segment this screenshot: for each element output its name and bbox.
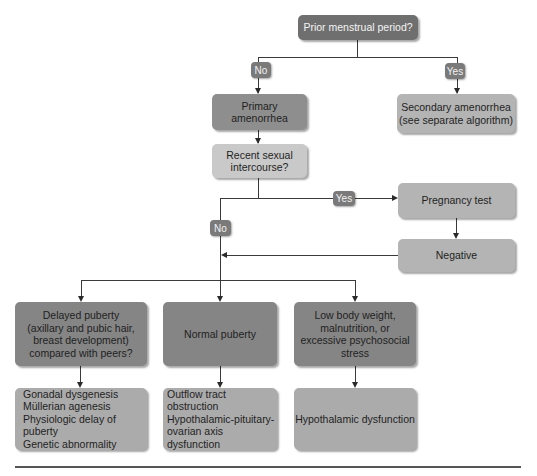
node-label: Delayed puberty (axillary and pubic hair… xyxy=(27,309,134,359)
node-outcome-normal: Outflow tract obstruction Hypothalamic-p… xyxy=(163,388,277,450)
node-label: Low body weight, malnutrition, or excess… xyxy=(300,309,409,359)
connector-root-down xyxy=(357,40,358,57)
pill-text: Yes xyxy=(336,193,352,204)
node-label: Normal puberty xyxy=(184,328,256,341)
node-normal-puberty: Normal puberty xyxy=(163,302,277,366)
connector-root-split xyxy=(258,57,458,58)
node-label: Gonadal dysgenesis Müllerian agenesis Ph… xyxy=(23,388,147,451)
node-label: Hypothalamic dysfunction xyxy=(295,413,415,426)
node-delayed-puberty: Delayed puberty (axillary and pubic hair… xyxy=(15,302,147,366)
pill-text: No xyxy=(214,223,227,234)
branch-label-intercourse-yes: Yes xyxy=(333,191,355,206)
node-prior-menstrual-period: Prior menstrual period? xyxy=(298,15,418,40)
branch-label-no: No xyxy=(251,62,271,78)
connector-to-lowweight xyxy=(355,280,356,297)
node-label: Outflow tract obstruction Hypothalamic-p… xyxy=(167,388,277,451)
node-label: Secondary amenorrhea (see separate algor… xyxy=(399,101,513,126)
node-pregnancy-test: Pregnancy test xyxy=(398,183,515,218)
pill-text: No xyxy=(255,65,268,76)
node-primary-amenorrhea: Primary amenorrhea xyxy=(212,94,307,130)
node-recent-sexual-intercourse: Recent sexual intercourse? xyxy=(212,144,307,178)
arrow-negative-to-trunk xyxy=(221,252,227,258)
connector-lowweight-to-outcome xyxy=(355,366,356,383)
node-label: Pregnancy test xyxy=(421,194,491,207)
node-label: Negative xyxy=(436,249,477,262)
node-low-body-weight: Low body weight, malnutrition, or excess… xyxy=(294,302,416,366)
node-label: Prior menstrual period? xyxy=(303,21,412,34)
connector-intercourse-split xyxy=(220,198,392,199)
node-negative: Negative xyxy=(398,239,515,272)
branch-label-yes: Yes xyxy=(445,63,465,79)
node-label: Primary amenorrhea xyxy=(231,100,288,125)
connector-to-delayed xyxy=(81,280,82,297)
branch-label-intercourse-no: No xyxy=(210,220,231,236)
node-outcome-delayed: Gonadal dysgenesis Müllerian agenesis Ph… xyxy=(15,388,147,450)
pill-text: Yes xyxy=(447,66,463,77)
connector-category-split xyxy=(81,280,356,281)
connector-intercourse-down xyxy=(258,178,259,199)
node-secondary-amenorrhea: Secondary amenorrhea (see separate algor… xyxy=(397,94,515,133)
figure-bottom-rule xyxy=(15,466,521,468)
connector-delayed-to-outcome xyxy=(80,366,81,383)
node-outcome-lowweight: Hypothalamic dysfunction xyxy=(294,388,416,450)
connector-pregnancy-to-negative xyxy=(456,218,457,234)
node-label: Recent sexual intercourse? xyxy=(226,149,293,174)
connector-negative-left xyxy=(226,255,398,256)
connector-normal-to-outcome xyxy=(220,366,221,383)
connector-trunk xyxy=(220,198,221,296)
